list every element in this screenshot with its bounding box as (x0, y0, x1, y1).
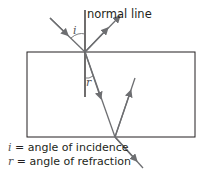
legend-i-text: = angle of incidence (15, 141, 129, 154)
legend-i-symbol: i (8, 141, 12, 154)
legend-r-text: = angle of refraction (17, 155, 131, 168)
angle-r-label: r (86, 77, 91, 89)
legend-r-symbol: r (8, 155, 13, 168)
legend-incidence: i = angle of incidence (8, 142, 129, 154)
legend-refraction: r = angle of refraction (8, 156, 131, 168)
angle-i-label: i (73, 25, 77, 37)
normal-line-label: normal line (87, 8, 152, 20)
